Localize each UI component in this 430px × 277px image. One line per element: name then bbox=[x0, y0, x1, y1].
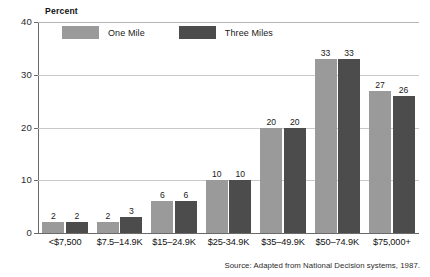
bar-value-label: 33 bbox=[321, 48, 331, 58]
bar-value-label: 20 bbox=[266, 117, 276, 127]
bar-value-label: 33 bbox=[344, 48, 354, 58]
bar-one-mile: 6 bbox=[151, 201, 173, 233]
x-tick-label: $7.5–14.9K bbox=[92, 237, 146, 247]
bar-groups: 2223661010202033332726 bbox=[38, 22, 419, 233]
y-axis-title: Percent bbox=[45, 6, 78, 16]
bar-one-mile: 27 bbox=[369, 91, 391, 233]
bar-one-mile: 2 bbox=[97, 222, 119, 233]
bar-group: 23 bbox=[97, 22, 143, 233]
bar-value-label: 2 bbox=[75, 211, 80, 221]
bar-value-label: 27 bbox=[375, 80, 385, 90]
x-tick-label: $75,000+ bbox=[365, 237, 419, 247]
x-axis-line bbox=[38, 233, 419, 234]
x-tick-label: $35–49.9K bbox=[256, 237, 310, 247]
bar-value-label: 2 bbox=[106, 211, 111, 221]
y-tick-label-30: 30 bbox=[0, 69, 32, 80]
bar-three-miles: 2 bbox=[66, 222, 88, 233]
bar-value-label: 2 bbox=[51, 211, 56, 221]
x-tick-label: $15–24.9K bbox=[147, 237, 201, 247]
x-axis-labels: <$7,500$7.5–14.9K$15–24.9K$25-34.9K$35–4… bbox=[38, 237, 419, 253]
bar-three-miles: 10 bbox=[229, 180, 251, 233]
bar-value-label: 20 bbox=[290, 117, 300, 127]
bar-one-mile: 20 bbox=[260, 128, 282, 234]
bar-group: 66 bbox=[151, 22, 197, 233]
x-tick-label: <$7,500 bbox=[38, 237, 92, 247]
y-tick-label-20: 20 bbox=[0, 122, 32, 133]
x-tick-label: $25-34.9K bbox=[201, 237, 255, 247]
bar-one-mile: 2 bbox=[42, 222, 64, 233]
bar-value-label: 6 bbox=[183, 190, 188, 200]
bar-three-miles: 33 bbox=[338, 59, 360, 233]
bar-value-label: 10 bbox=[235, 169, 245, 179]
bar-group: 3333 bbox=[315, 22, 361, 233]
bar-three-miles: 3 bbox=[120, 217, 142, 233]
y-tick-mark-0 bbox=[34, 233, 38, 234]
y-tick-label-10: 10 bbox=[0, 174, 32, 185]
bar-three-miles: 6 bbox=[175, 201, 197, 233]
bar-group: 2020 bbox=[260, 22, 306, 233]
bar-three-miles: 26 bbox=[393, 96, 415, 233]
y-tick-label-0: 0 bbox=[0, 227, 32, 238]
bar-value-label: 26 bbox=[399, 85, 409, 95]
bar-group: 1010 bbox=[206, 22, 252, 233]
bar-value-label: 3 bbox=[129, 206, 134, 216]
bar-chart: Percent 010203040 One Mile Three Miles 2… bbox=[0, 0, 430, 277]
bar-value-label: 10 bbox=[212, 169, 222, 179]
bar-group: 22 bbox=[42, 22, 88, 233]
y-tick-label-40: 40 bbox=[0, 16, 32, 27]
bar-one-mile: 33 bbox=[315, 59, 337, 233]
bar-three-miles: 20 bbox=[284, 128, 306, 234]
bar-group: 2726 bbox=[369, 22, 415, 233]
x-tick-label: $50–74.9K bbox=[310, 237, 364, 247]
bar-one-mile: 10 bbox=[206, 180, 228, 233]
bar-value-label: 6 bbox=[160, 190, 165, 200]
source-note: Source: Adapted from National Decision s… bbox=[224, 261, 420, 270]
